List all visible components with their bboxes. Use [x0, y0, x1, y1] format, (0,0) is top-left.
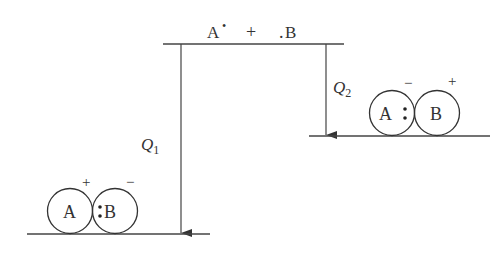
right-atom-b-label: B [430, 104, 442, 124]
q1-label: Q1 [141, 135, 159, 157]
left-bond-dot-bottom [98, 214, 102, 218]
right-bond-dot-top [403, 107, 407, 111]
left-product: A B + − [48, 174, 138, 234]
left-atom-b-label: B [104, 202, 116, 222]
right-atom-a-circle [370, 91, 415, 136]
left-charge-a: + [82, 174, 90, 190]
right-charge-a: − [404, 75, 412, 91]
left-charge-b: − [126, 174, 134, 190]
right-charge-b: + [448, 73, 456, 89]
reactant-a-dot: • [222, 19, 226, 33]
reactant-a: A [207, 23, 220, 42]
energy-diagram: A • + . B Q1 Q2 A B − + A B + − [0, 0, 504, 254]
reactant-b-dot: . [279, 22, 284, 42]
right-atom-a-label: A [379, 104, 392, 124]
right-product: A B − + [370, 73, 460, 136]
left-atom-a-label: A [63, 202, 76, 222]
reactant-b: B [285, 23, 296, 42]
left-bond-dot-top [98, 205, 102, 209]
plus-sign: + [246, 22, 256, 42]
right-bond-dot-bottom [403, 116, 407, 120]
q2-label: Q2 [333, 78, 351, 100]
reactants-label: A • + . B [207, 19, 296, 42]
